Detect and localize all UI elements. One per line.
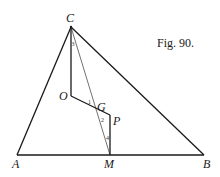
label-O: O — [59, 89, 68, 103]
label-B: B — [203, 157, 211, 171]
angle-label-1: 1 — [88, 99, 91, 105]
angle-label-2: 2 — [101, 117, 104, 123]
label-A: A — [11, 157, 20, 171]
geometry-diagram: C A B M O G P 3 1 2 4 Fig. 90. — [0, 0, 220, 177]
label-M: M — [103, 157, 115, 171]
vertex-dot-C — [70, 26, 72, 28]
label-C: C — [66, 11, 75, 25]
angle-label-3: 3 — [72, 41, 75, 47]
angle-label-4: 4 — [106, 135, 109, 141]
label-G: G — [97, 100, 106, 114]
label-P: P — [112, 114, 121, 128]
figure-caption: Fig. 90. — [157, 36, 194, 50]
